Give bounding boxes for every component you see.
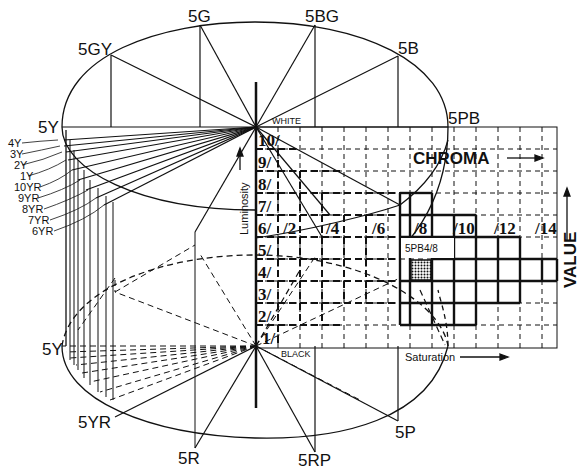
hue-label-5pb: 5PB xyxy=(448,109,480,128)
chroma-label-14: /14 xyxy=(534,219,557,238)
saturation-axis-title: Saturation xyxy=(405,351,455,363)
value-label-3: 3/ xyxy=(258,285,272,304)
value-label-1: 1/ xyxy=(262,329,276,348)
value-label-7: 7/ xyxy=(258,197,272,216)
hue-label-5b: 5B xyxy=(398,39,419,58)
chroma-labels: /2 /4 /6 /8 /10 /12 /14 xyxy=(282,219,557,238)
hue-label-5g: 5G xyxy=(188,7,211,26)
value-axis-title: VALUE xyxy=(561,232,580,288)
chroma-label-10: /10 xyxy=(452,219,475,238)
hue-label-5gy: 5GY xyxy=(78,40,112,59)
hue-label-5p: 5P xyxy=(395,423,416,442)
hue-label-5yr: 5YR xyxy=(78,413,111,432)
chroma-label-6: /6 xyxy=(371,219,385,238)
sample-swatch-5pb4-8 xyxy=(411,260,431,280)
value-labels: 10/ 9/ 8/ 7/ 6/ 5/ 4/ 3/ 2/ 1/ xyxy=(258,131,280,348)
left-verticals xyxy=(70,140,195,448)
chroma-label-12: /12 xyxy=(493,219,516,238)
value-label-2: 2/ xyxy=(258,307,272,326)
value-label-10: 10/ xyxy=(258,131,280,150)
chroma-axis-title: CHROMA xyxy=(413,149,490,168)
chroma-label-2: /2 xyxy=(282,219,296,238)
black-pole-label: BLACK xyxy=(281,349,311,359)
5pb-gamut-staircase xyxy=(400,193,557,325)
value-label-4: 4/ xyxy=(258,263,272,282)
hue-label-5y-top: 5Y xyxy=(38,118,59,137)
white-pole-label: WHITE xyxy=(272,116,301,126)
hue-label-5y-bottom: 5Y xyxy=(42,340,63,359)
hue-label-5bg: 5BG xyxy=(305,7,339,26)
chroma-label-8: /8 xyxy=(413,219,427,238)
sample-label: 5PB4/8 xyxy=(405,243,438,254)
value-label-5: 5/ xyxy=(258,241,272,260)
munsell-diagram: 5Y 5GY 5G 5BG 5B 5PB 5Y 5YR 5R 5RP 5P 4Y… xyxy=(0,0,584,475)
value-label-9: 9/ xyxy=(258,153,272,172)
hue-label-5rp: 5RP xyxy=(298,451,331,470)
hue-label-5r: 5R xyxy=(178,449,200,468)
chroma-label-4: /4 xyxy=(325,219,340,238)
hue-tick-6yr: 6YR xyxy=(32,225,53,237)
luminosity-axis-title: Luminosity xyxy=(238,182,250,235)
value-label-8: 8/ xyxy=(258,175,272,194)
value-label-6: 6/ xyxy=(258,219,272,238)
